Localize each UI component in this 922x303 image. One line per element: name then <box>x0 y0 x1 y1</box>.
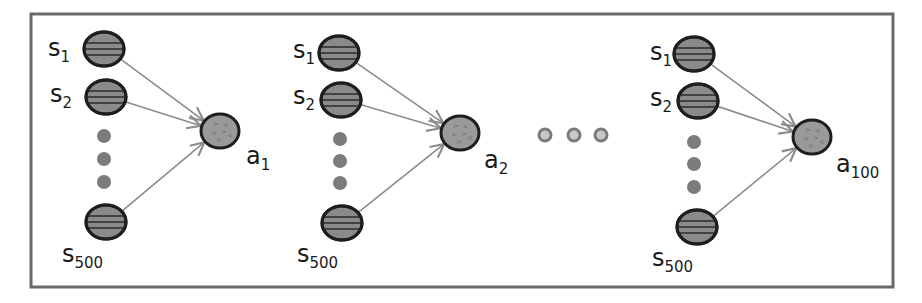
continuation-dot <box>539 129 551 141</box>
continuation-dot <box>595 129 607 141</box>
texture-speck: > <box>456 138 462 146</box>
state-node-s1 <box>84 32 124 66</box>
state-node-s2 <box>678 84 718 118</box>
action-node-a1: ><<>>< <box>201 114 239 148</box>
continuation-dot <box>568 129 580 141</box>
ellipsis-dot <box>97 129 111 143</box>
action-node-a100: ><<>>< <box>793 120 831 154</box>
ellipsis-dot <box>333 176 347 190</box>
texture-speck: > <box>213 120 219 128</box>
ellipsis-dot <box>97 152 111 166</box>
texture-speck: > <box>805 126 811 134</box>
ellipsis-dot <box>687 157 701 171</box>
state-node-s500 <box>86 205 126 239</box>
ellipsis-dot <box>333 132 347 146</box>
ellipsis-dot <box>333 154 347 168</box>
texture-speck: > <box>216 136 222 144</box>
texture-speck: < <box>227 132 233 140</box>
state-node-s500 <box>677 210 717 244</box>
texture-speck: < <box>467 134 473 142</box>
state-node-s2 <box>321 83 361 117</box>
ellipsis-dot <box>97 175 111 189</box>
action-node-a2: ><<>>< <box>441 116 479 150</box>
state-node-s500 <box>322 206 362 240</box>
texture-speck: < <box>819 138 825 146</box>
ellipsis-dot <box>687 135 701 149</box>
ellipsis-dot <box>687 180 701 194</box>
texture-speck: > <box>808 142 814 150</box>
state-action-diagram: ><<>><><<>><><<>>< s1s2s500a1s1s2s500a2s… <box>0 0 922 303</box>
state-node-s2 <box>86 80 126 114</box>
state-node-s1 <box>674 37 714 71</box>
state-node-s1 <box>319 36 359 70</box>
texture-speck: > <box>453 122 459 130</box>
